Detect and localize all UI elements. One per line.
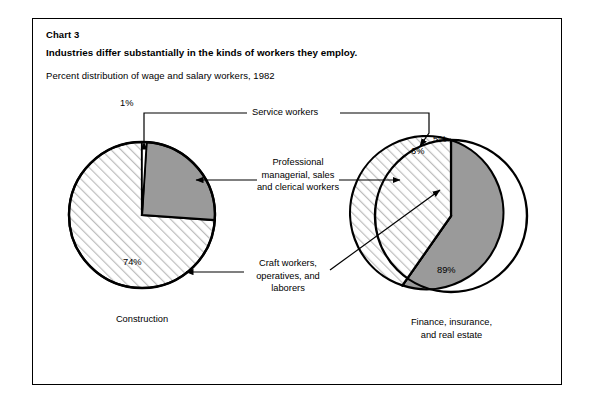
professional-callout-line3: and clerical workers bbox=[248, 181, 348, 194]
right-pie-caption: Finance, insurance, and real estate bbox=[389, 316, 514, 341]
right-pct-craft: 5% bbox=[433, 134, 446, 144]
craft-callout-line3: laborers bbox=[243, 282, 333, 295]
pie-charts-graphic bbox=[0, 0, 591, 411]
service-workers-callout: Service workers bbox=[252, 107, 318, 117]
craft-callout-line2: operatives, and bbox=[243, 270, 333, 283]
right-pie-caption-line1: Finance, insurance, bbox=[389, 316, 514, 329]
right-pie-caption-line2: and real estate bbox=[389, 329, 514, 342]
left-slice-professional bbox=[142, 142, 215, 220]
craft-callout-line1: Craft workers, bbox=[243, 257, 333, 270]
left-pie-caption: Construction bbox=[92, 314, 192, 324]
leader-service-left bbox=[144, 113, 247, 142]
professional-callout: Professional managerial, sales and cleri… bbox=[248, 156, 348, 194]
left-pct-craft: 74% bbox=[123, 257, 142, 267]
professional-callout-line1: Professional bbox=[248, 156, 348, 169]
professional-callout-line2: managerial, sales bbox=[248, 169, 348, 182]
right-pct-service: 6% bbox=[411, 146, 424, 156]
left-pct-service: 1% bbox=[120, 98, 133, 108]
left-pie bbox=[69, 142, 215, 288]
chart-page: Chart 3 Industries differ substantially … bbox=[0, 0, 591, 411]
right-pct-professional: 89% bbox=[437, 265, 456, 275]
craft-callout: Craft workers, operatives, and laborers bbox=[243, 257, 333, 295]
